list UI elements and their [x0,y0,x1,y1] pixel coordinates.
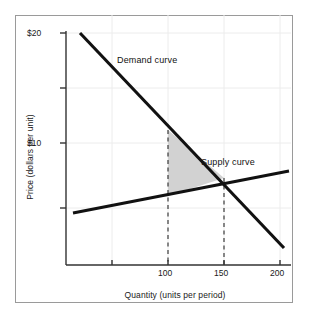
x-axis-ticks [112,260,280,265]
y-axis-title-wrapper: Price (dollars per unit) [19,87,37,227]
figure-container: Price (dollars per unit) Quantity (units… [0,0,309,326]
y-axis-ticks [60,33,66,208]
demand-curve-line [80,33,284,248]
y-tick-label-10: $10 [27,138,41,148]
y-tick-label-20: $20 [27,28,41,38]
x-tick-label-100: 100 [158,268,172,278]
x-tick-label-200: 200 [270,268,284,278]
supply-curve-label: Supply curve [201,157,255,167]
y-axis-title: Price (dollars per unit) [25,114,35,200]
x-tick-label-150: 150 [214,268,228,278]
x-axis-title-wrapper: Quantity (units per period) [60,284,290,302]
x-axis-title: Quantity (units per period) [125,290,226,300]
chart-plot-area [0,0,309,326]
demand-curve-label: Demand curve [117,55,177,65]
